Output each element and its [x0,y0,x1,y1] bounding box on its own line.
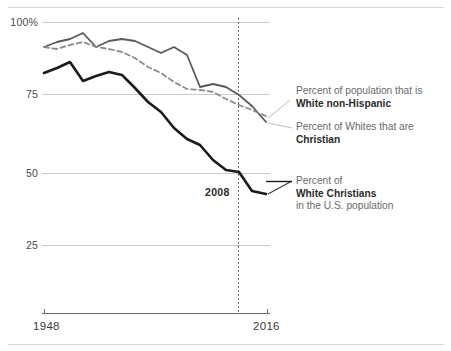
legend-label-line1: Percent of population that is [296,85,422,96]
y-axis-tick-label-50: 50 [4,167,38,179]
legend-label-line1: Percent of [296,175,342,186]
y-axis-tick-label-75: 75 [4,88,38,100]
y-axis-tick-label-100: 100% [4,16,38,28]
legend-label-line2: White non-Hispanic [296,98,391,109]
x-axis-tick-label-1948: 1948 [33,320,60,332]
legend-label-line2: Christian [296,134,340,145]
leader-line-white-christians [268,181,292,194]
leader-line-whites-christian [268,123,292,128]
legend-item-white-non-hispanic: Percent of population that is White non-… [296,85,446,110]
chart-figure: 100% 75 50 25 1948 2016 2008 Percent of … [0,0,451,351]
legend-leader-lines [266,100,292,194]
legend-label-line2: White Christians [296,188,376,199]
gridlines [42,23,270,246]
legend-label-line1: Percent of Whites that are [296,121,414,132]
year-marker-2008-label: 2008 [205,186,230,198]
y-axis-tick-label-25: 25 [4,239,38,251]
legend-label-line3: in the U.S. population [296,200,393,211]
legend-item-whites-christian: Percent of Whites that are Christian [296,121,446,146]
series-white-christians-line [44,62,266,194]
x-axis-tick-label-2016: 2016 [253,320,280,332]
leader-line-white-non-hispanic [268,100,290,118]
legend-item-white-christians: Percent of White Christians in the U.S. … [296,175,446,213]
series-white-non-hispanic-line [44,42,266,116]
x-axis [42,309,270,314]
